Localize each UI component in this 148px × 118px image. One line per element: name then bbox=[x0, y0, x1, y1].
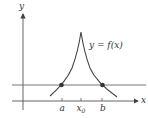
intersection-point-b bbox=[100, 83, 105, 88]
curve-label: y = f(x) bbox=[88, 40, 123, 50]
x-axis-label: x bbox=[141, 95, 146, 105]
y-axis-label: y bbox=[18, 1, 25, 11]
tick-label-b: b bbox=[100, 103, 106, 113]
function-diagram: y x a x0 b y = f(x) bbox=[0, 0, 148, 118]
tick-label-x0: x0 bbox=[77, 103, 86, 114]
intersection-point-a bbox=[59, 83, 64, 88]
tick-label-a: a bbox=[60, 103, 65, 113]
